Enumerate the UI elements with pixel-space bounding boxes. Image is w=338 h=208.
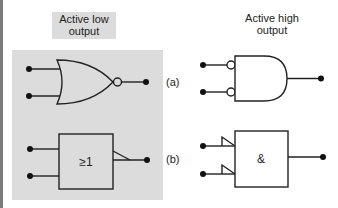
nor-gate [29, 60, 146, 104]
and-gate-inverted-inputs [203, 56, 321, 101]
logic-diagram: ≥1 & [0, 0, 338, 208]
and-box-label: & [257, 152, 265, 166]
or-box-label: ≥1 [79, 155, 93, 169]
